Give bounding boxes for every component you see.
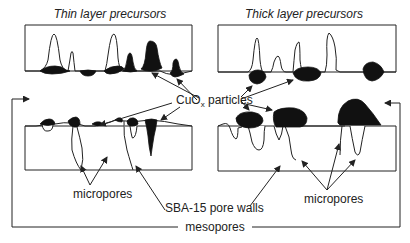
thick-layer-title: Thick layer precursors [245, 7, 363, 21]
micropores-left-label: micropores [73, 187, 132, 201]
pore-walls-arrow-left [136, 166, 165, 210]
thick-bottom-particles [236, 99, 381, 128]
thin-bottom-pore-wall [25, 120, 192, 170]
cuox-particles-label: CuOx particles [176, 93, 253, 109]
cuox-sba15-diagram: Thin layer precursors Thick layer precur… [0, 0, 410, 243]
thick-bottom-pore-wall [218, 124, 396, 172]
mesopores-label: mesopores [185, 220, 244, 234]
micropores-right-label: micropores [304, 192, 363, 206]
thin-layer-title: Thin layer precursors [54, 7, 167, 21]
sba15-pore-walls-label: SBA-15 pore walls [165, 201, 264, 215]
pore-walls-arrow-right [250, 166, 280, 206]
